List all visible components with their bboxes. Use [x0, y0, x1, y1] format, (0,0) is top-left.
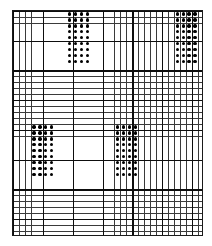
- dot-marker: [38, 173, 41, 176]
- dot-marker: [68, 30, 71, 33]
- dot-marker: [187, 48, 190, 51]
- dot-marker: [50, 173, 53, 176]
- dot-marker: [176, 60, 179, 63]
- dot-marker: [187, 36, 190, 39]
- dot-marker: [74, 24, 77, 27]
- dot-marker: [74, 30, 77, 33]
- dot-marker: [176, 36, 179, 39]
- dot-marker: [74, 48, 77, 51]
- dot-marker: [80, 30, 83, 33]
- dot-marker: [86, 18, 89, 21]
- dot-marker: [32, 131, 35, 134]
- dot-marker: [74, 36, 77, 39]
- dot-marker: [116, 173, 119, 176]
- top-right-cluster: [174, 11, 198, 64]
- dot-marker: [193, 12, 196, 15]
- dot-marker: [187, 60, 190, 63]
- dot-marker: [44, 149, 47, 152]
- dot-marker: [38, 125, 41, 128]
- dot-marker: [32, 125, 35, 128]
- dot-marker: [193, 54, 196, 57]
- dot-marker: [86, 24, 89, 27]
- dot-marker: [68, 42, 71, 45]
- dot-marker: [122, 143, 125, 146]
- dot-marker: [134, 173, 137, 176]
- dot-marker: [193, 60, 196, 63]
- dot-marker: [68, 48, 71, 51]
- dot-marker: [122, 125, 125, 128]
- dot-marker: [80, 42, 83, 45]
- dot-marker: [32, 143, 35, 146]
- dot-marker: [32, 167, 35, 170]
- dot-marker: [86, 54, 89, 57]
- dot-marker: [116, 125, 119, 128]
- dot-marker: [182, 54, 185, 57]
- dot-marker: [80, 54, 83, 57]
- dot-marker: [74, 60, 77, 63]
- dot-marker: [128, 173, 131, 176]
- dot-cell: [49, 172, 55, 178]
- dot-marker: [86, 48, 89, 51]
- dot-marker: [134, 167, 137, 170]
- dot-marker: [116, 167, 119, 170]
- dot-marker: [44, 131, 47, 134]
- dot-marker: [80, 48, 83, 51]
- dot-marker: [134, 155, 137, 158]
- dot-marker: [116, 149, 119, 152]
- dot-marker: [74, 42, 77, 45]
- dot-marker: [182, 24, 185, 27]
- dot-marker: [176, 12, 179, 15]
- dot-marker: [32, 155, 35, 158]
- dot-marker: [116, 161, 119, 164]
- dot-marker: [128, 161, 131, 164]
- dot-marker: [182, 36, 185, 39]
- dot-marker: [134, 125, 137, 128]
- dot-marker: [128, 131, 131, 134]
- grid-paper: [12, 10, 203, 236]
- dot-marker: [187, 12, 190, 15]
- dot-marker: [68, 24, 71, 27]
- dot-marker: [187, 24, 190, 27]
- dot-marker: [176, 24, 179, 27]
- dot-marker: [38, 143, 41, 146]
- dot-marker: [128, 155, 131, 158]
- dot-marker: [128, 125, 131, 128]
- dot-marker: [80, 60, 83, 63]
- dot-marker: [44, 125, 47, 128]
- dot-marker: [182, 48, 185, 51]
- dot-marker: [86, 12, 89, 15]
- dot-marker: [116, 131, 119, 134]
- dot-marker: [44, 143, 47, 146]
- dot-marker: [80, 12, 83, 15]
- dot-marker: [68, 54, 71, 57]
- dot-cell: [132, 172, 138, 178]
- top-middle-cluster: [67, 11, 91, 64]
- dot-marker: [116, 137, 119, 140]
- dot-marker: [38, 155, 41, 158]
- dot-marker: [193, 30, 196, 33]
- dot-marker: [86, 42, 89, 45]
- dot-marker: [32, 137, 35, 140]
- dot-marker: [187, 30, 190, 33]
- dot-marker: [176, 48, 179, 51]
- dot-marker: [32, 161, 35, 164]
- dot-marker: [193, 36, 196, 39]
- dot-marker: [50, 131, 53, 134]
- dot-marker: [176, 54, 179, 57]
- dot-marker: [193, 48, 196, 51]
- dot-marker: [32, 173, 35, 176]
- dot-marker: [74, 18, 77, 21]
- dot-marker: [38, 149, 41, 152]
- dot-marker: [32, 149, 35, 152]
- dot-cell: [192, 59, 198, 65]
- dot-marker: [122, 149, 125, 152]
- dot-marker: [50, 155, 53, 158]
- dot-marker: [128, 143, 131, 146]
- dot-marker: [193, 18, 196, 21]
- dot-marker: [38, 137, 41, 140]
- dot-marker: [187, 42, 190, 45]
- dot-marker: [176, 30, 179, 33]
- dot-marker: [134, 137, 137, 140]
- dot-marker: [68, 18, 71, 21]
- dot-marker: [187, 18, 190, 21]
